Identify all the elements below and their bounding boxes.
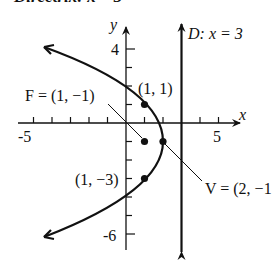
x-tick-label-neg5: -5 (18, 128, 31, 145)
label-point-top: (1, 1) (138, 80, 173, 98)
header-text: Directrix: x = 3 (13, 0, 123, 6)
focus-leader-line (108, 104, 142, 138)
x-axis-label: x (238, 106, 246, 123)
label-vertex: V = (2, −1 (205, 180, 272, 198)
point-latus-top (141, 101, 148, 108)
x-tick-label-5: 5 (213, 128, 221, 145)
parabola-diagram: Directrix: x = 3 y x -5 5 4 -6 D: x = 3 (0, 0, 276, 264)
y-axis-label: y (108, 16, 118, 34)
directrix-label: D: x = 3 (187, 25, 243, 42)
y-tick-label-4: 4 (111, 41, 119, 58)
y-ticks (126, 49, 135, 234)
label-point-bottom: (1, −3) (75, 171, 119, 189)
focus-point (141, 138, 148, 145)
y-tick-label-neg6: -6 (103, 227, 116, 244)
label-focus: F = (1, −1) (25, 87, 95, 105)
point-latus-bottom (141, 175, 148, 182)
vertex-leader-line (165, 144, 202, 181)
